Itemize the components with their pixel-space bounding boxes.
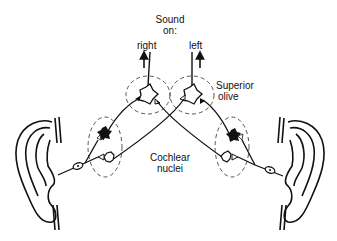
superior-olive-label-line1: Superior bbox=[216, 80, 254, 91]
cochlear-left-open-neuron-icon bbox=[98, 152, 114, 162]
ear-right-icon bbox=[278, 117, 324, 230]
cochlear-nuclei-label-line2: nuclei bbox=[145, 163, 195, 174]
output-right-label: right bbox=[137, 40, 156, 51]
superior-olive-left-neuron-icon bbox=[180, 84, 205, 104]
cochlear-nuclei-label-line1: Cochlear bbox=[145, 152, 195, 163]
auditory-nerve-right bbox=[238, 157, 283, 176]
ear-left-icon bbox=[16, 117, 61, 230]
cochlear-right-filled-neuron-icon bbox=[226, 128, 243, 142]
superior-olive-right-neuron-icon bbox=[135, 84, 160, 104]
superior-olive-label: Superior olive bbox=[216, 80, 254, 102]
output-left-label: left bbox=[189, 40, 202, 51]
axon-right-output bbox=[148, 52, 150, 86]
cochlear-nuclei-label: Cochlear nuclei bbox=[145, 152, 195, 174]
cochlear-right-open-neuron-icon bbox=[221, 151, 238, 162]
diagram-drawing bbox=[0, 0, 337, 241]
superior-olive-label-line2: olive bbox=[216, 91, 254, 102]
sound-heading-line1: Sound bbox=[150, 14, 190, 25]
cochlear-nucleus-left-boundary bbox=[88, 117, 122, 177]
auditory-pathway-diagram: Sound on: right left Superior olive Coch… bbox=[0, 0, 337, 241]
fiber-left-cochlear-to-left-olive bbox=[112, 99, 184, 160]
sound-heading-line2: on: bbox=[150, 25, 190, 36]
cochlear-nucleus-right-boundary bbox=[215, 117, 249, 177]
sound-heading: Sound on: bbox=[150, 14, 190, 36]
